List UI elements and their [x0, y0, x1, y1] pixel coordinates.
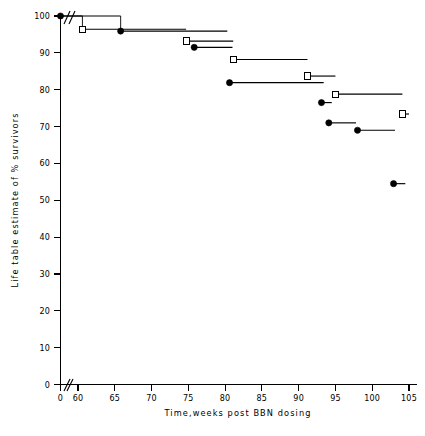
y-tick-label: 10 — [39, 344, 50, 353]
series-open-square-group — [61, 16, 410, 117]
data-point-filled-circle — [191, 44, 197, 50]
x-tick-label: 90 — [293, 394, 304, 403]
y-axis-title: Life table estimate of % survivors — [10, 112, 20, 287]
x-tick-label: 85 — [257, 394, 268, 403]
x-tick-label: 0 — [58, 394, 63, 403]
x-axis-title: Time,weeks post BBN dosing — [164, 408, 312, 418]
data-point-open-square — [230, 56, 236, 62]
x-tick-label: 100 — [364, 394, 380, 403]
y-tick-label: 80 — [39, 86, 50, 95]
x-tick-label: 70 — [146, 394, 157, 403]
axes-group — [61, 16, 418, 385]
y-tick-label: 60 — [39, 159, 50, 168]
x-tick-label: 60 — [73, 394, 84, 403]
y-tick-label: 100 — [34, 12, 50, 21]
data-point-filled-circle — [118, 28, 124, 34]
x-tick-label: 65 — [109, 394, 120, 403]
data-point-filled-circle — [354, 127, 360, 133]
y-tick-label: 50 — [39, 196, 50, 205]
data-point-open-square — [399, 111, 405, 117]
y-tick-label: 30 — [39, 270, 50, 279]
x-tick-label: 75 — [183, 394, 194, 403]
y-tick-group: 0102030405060708090100 — [34, 12, 60, 390]
x-tick-label: 105 — [401, 394, 417, 403]
x-tick-label: 95 — [330, 394, 341, 403]
x-tick-group: 06065707580859095100105 — [58, 385, 417, 404]
x-tick-label: 80 — [220, 394, 231, 403]
series-group — [57, 13, 409, 187]
y-tick-label: 20 — [39, 307, 50, 316]
y-tick-label: 40 — [39, 233, 50, 242]
data-point-open-square — [304, 73, 310, 79]
y-tick-label: 70 — [39, 123, 50, 132]
data-point-open-square — [79, 26, 85, 32]
y-tick-label: 90 — [39, 49, 50, 58]
survival-chart-figure: 0102030405060708090100 06065707580859095… — [0, 0, 425, 436]
chart-canvas: 0102030405060708090100 06065707580859095… — [0, 0, 425, 436]
origin-data-point — [57, 13, 63, 19]
data-point-filled-circle — [326, 120, 332, 126]
data-point-filled-circle — [390, 181, 396, 187]
plot-break-icon — [64, 11, 75, 24]
data-point-open-square — [183, 38, 189, 44]
y-tick-label: 0 — [45, 381, 50, 390]
data-point-open-square — [332, 91, 338, 97]
data-point-filled-circle — [318, 99, 324, 105]
data-point-filled-circle — [226, 80, 232, 86]
